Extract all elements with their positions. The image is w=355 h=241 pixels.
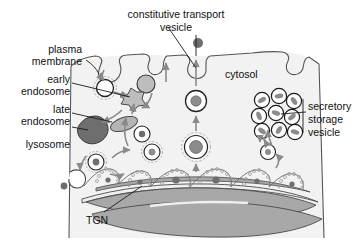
secretory-storage-vesicle	[271, 122, 286, 137]
endocytic-vesicle-white	[97, 80, 114, 97]
figure-canvas: plasma membrane early endosome late endo…	[0, 0, 355, 241]
label-secretory-storage-vesicle-line3: vesicle	[308, 126, 340, 138]
label-secretory-storage-vesicle-line1: secretory	[308, 100, 352, 112]
secretory-storage-vesicle	[287, 124, 302, 139]
label-early-endosome-line1: early	[47, 73, 71, 85]
label-constitutive-transport-vesicle-line2: vesicle	[160, 21, 192, 33]
vesicle-small-uncoated-mid	[134, 126, 150, 142]
label-constitutive-transport-vesicle-line1: constitutive transport	[128, 8, 225, 20]
label-early-endosome-line2: endosome	[21, 85, 70, 97]
secretory-storage-vesicle	[268, 105, 283, 120]
label-plasma-membrane-line1: plasma	[48, 43, 82, 55]
secretory-storage-vesicle	[284, 109, 299, 124]
secretory-storage-vesicle	[271, 88, 286, 103]
cell-diagram: plasma membrane early endosome late endo…	[0, 0, 355, 241]
label-lysosome: lysosome	[26, 138, 71, 150]
label-secretory-storage-vesicle-line2: storage	[308, 113, 343, 125]
label-cytosol: cytosol	[225, 68, 258, 80]
secretory-storage-vesicle-cluster	[251, 88, 302, 139]
constitutive-transport-vesicle	[186, 91, 207, 112]
label-late-endosome-line2: endosome	[21, 115, 70, 127]
secretory-storage-vesicle	[254, 92, 269, 107]
label-late-endosome-line1: late	[53, 103, 70, 115]
secretory-storage-vesicle	[251, 108, 266, 123]
exocytosis-left	[69, 170, 86, 188]
vesicle-endocytic-gray	[137, 75, 155, 93]
label-plasma-membrane-line2: membrane	[32, 55, 82, 67]
secretory-storage-vesicle	[286, 93, 301, 108]
vesicle-right-ascending	[261, 145, 276, 160]
label-tgn: TGN	[86, 214, 108, 226]
